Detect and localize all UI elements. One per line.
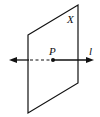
point-p	[51, 58, 55, 62]
plane-label-x: X	[66, 13, 75, 25]
right-arrowhead-icon	[86, 57, 94, 63]
point-label-p: P	[48, 45, 56, 57]
left-arrowhead-icon	[9, 57, 17, 63]
diagram-canvas: X P l	[0, 0, 100, 117]
line-label-l: l	[89, 45, 92, 57]
